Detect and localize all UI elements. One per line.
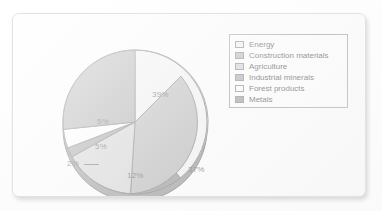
slice-label-metals: 2% — [67, 159, 79, 168]
legend-swatch-industrial-minerals — [235, 74, 244, 81]
legend-label-energy: Energy — [249, 39, 274, 50]
legend-swatch-construction-materials — [235, 52, 244, 59]
chart-legend: Energy Construction materials Agricultur… — [229, 34, 348, 108]
slice-label-agriculture: 12% — [127, 171, 144, 180]
legend-item-energy[interactable]: Energy — [235, 39, 342, 50]
legend-label-construction-materials: Construction materials — [249, 50, 329, 61]
legend-swatch-agriculture — [235, 63, 244, 70]
chart-page: 39% 37% 12% 5% 5% 2% Energy Construction… — [0, 0, 382, 211]
slice-label-forest-products: 5% — [95, 142, 107, 151]
legend-swatch-forest-products — [235, 85, 244, 92]
legend-item-metals[interactable]: Metals — [235, 94, 342, 105]
legend-swatch-energy — [235, 41, 244, 48]
pie-chart: 39% 37% 12% 5% 5% 2% — [51, 38, 219, 197]
legend-label-forest-products: Forest products — [249, 83, 305, 94]
legend-item-forest-products[interactable]: Forest products — [235, 83, 342, 94]
slice-leader-line-metals — [84, 164, 99, 165]
slice-label-industrial-minerals: 5% — [97, 117, 109, 126]
legend-item-industrial-minerals[interactable]: Industrial minerals — [235, 72, 342, 83]
legend-item-construction-materials[interactable]: Construction materials — [235, 50, 342, 61]
legend-label-agriculture: Agriculture — [249, 61, 287, 72]
legend-swatch-metals — [235, 96, 244, 103]
slice-label-energy: 39% — [152, 90, 169, 99]
legend-label-industrial-minerals: Industrial minerals — [249, 72, 314, 83]
figure-frame: 39% 37% 12% 5% 5% 2% Energy Construction… — [12, 13, 366, 197]
legend-label-metals: Metals — [249, 94, 273, 105]
legend-item-agriculture[interactable]: Agriculture — [235, 61, 342, 72]
slice-label-construction-materials: 37% — [188, 165, 205, 174]
